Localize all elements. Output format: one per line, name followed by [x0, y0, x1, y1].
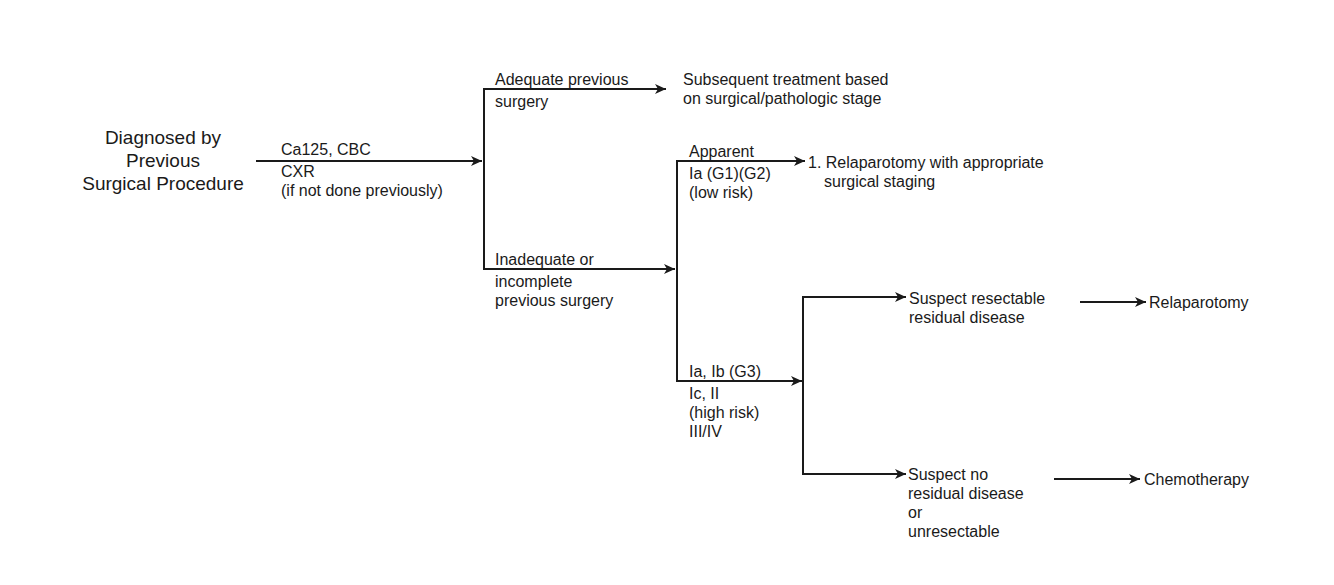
low-risk-outcome: 1. Relaparotomy with appropriate surgica… — [808, 153, 1044, 191]
flowchart-connectors — [0, 0, 1334, 585]
root-line: Diagnosed by — [68, 126, 258, 149]
low-risk-label: Apparent Ia (G1)(G2) (low risk) — [689, 142, 771, 202]
root-line: Previous — [68, 149, 258, 172]
relaparotomy-outcome: Relaparotomy — [1149, 293, 1249, 312]
inadequate-label: Inadequate or incomplete previous surger… — [495, 250, 613, 310]
root-line: Surgical Procedure — [68, 172, 258, 195]
adequate-outcome: Subsequent treatment based on surgical/p… — [683, 70, 888, 108]
root-node: Diagnosed by Previous Surgical Procedure — [68, 126, 258, 195]
resectable-label: Suspect resectable residual disease — [909, 289, 1045, 327]
workup-label: Ca125, CBC CXR (if not done previously) — [281, 140, 443, 200]
adequate-label: Adequate previous surgery — [495, 70, 628, 111]
chemotherapy-outcome: Chemotherapy — [1144, 470, 1249, 489]
high-risk-label: Ia, Ib (G3) Ic, II (high risk) III/IV — [689, 362, 761, 441]
no-residual-label: Suspect no residual disease or unresecta… — [908, 465, 1024, 541]
